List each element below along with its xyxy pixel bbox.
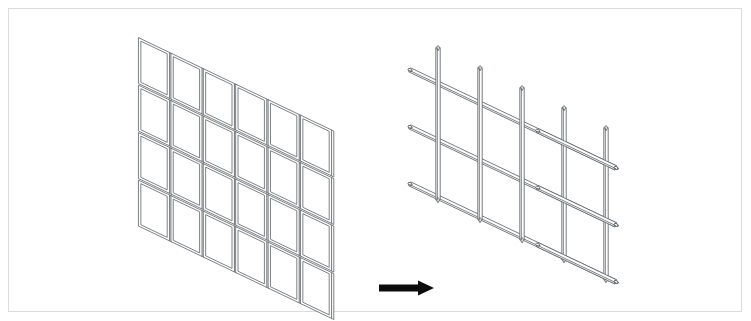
vertical-rod-body — [478, 68, 482, 220]
vertical-rod — [436, 46, 440, 202]
vertical-rod — [562, 106, 566, 262]
vertical-rod — [478, 66, 482, 222]
diagram-canvas — [0, 0, 751, 321]
panel-grid-figure — [139, 38, 334, 320]
vertical-rod-body — [604, 128, 608, 280]
vertical-rod-body — [436, 48, 440, 200]
arrow-glyph — [379, 281, 434, 296]
vertical-rod-body — [520, 88, 524, 240]
vertical-rod-body — [562, 108, 566, 260]
vertical-rod — [604, 126, 608, 282]
page-border — [9, 9, 742, 312]
rod-lattice-figure — [407, 46, 618, 284]
vertical-rod — [520, 86, 524, 242]
transformation-arrow — [379, 281, 434, 296]
